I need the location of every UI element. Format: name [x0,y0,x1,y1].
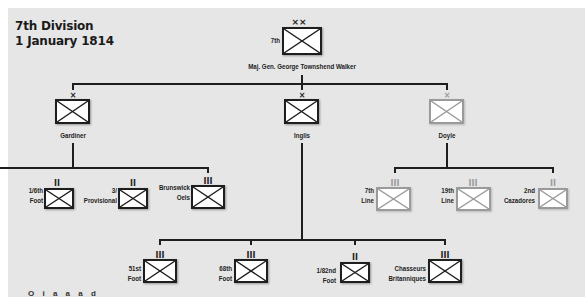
unit-label-line1: 1/6th [8,186,43,196]
infantry-cross-icon [145,261,175,281]
division-commander: Maj. Gen. George Townshend Walker [218,62,385,72]
infantry-cross-icon [284,29,320,53]
connector-line [446,83,448,90]
unit-label-line2: Foot [298,276,336,286]
connector-line [0,167,208,169]
connector-line [72,83,74,90]
connector-line [444,239,446,245]
brigade-doyle-symbol[interactable] [429,99,464,124]
unit-label-line2: Line [346,196,374,206]
infantry-cross-icon [120,190,146,207]
unit-label-line1: Brunswick [149,183,190,193]
connector-line [72,143,74,168]
division-unit-symbol[interactable] [282,27,322,55]
unit-label-line2: Provisional [70,196,117,206]
unit-19th-line-symbol[interactable] [456,187,491,211]
unit-chasseurs-britanniques-symbol[interactable] [428,259,462,283]
diagram-title-line1: 7th Division [15,19,93,33]
unit-label-line2: Oels [149,193,190,203]
unit-label-line1: Chasseurs [372,264,426,274]
division-name: 7th [255,36,280,46]
unit-label-line2: Foot [8,196,43,206]
connector-line [159,239,445,241]
infantry-cross-icon [540,190,566,207]
connector-line [250,239,252,245]
unit-label-line1: 19th [426,186,454,196]
unit-68th-foot-symbol[interactable] [234,259,268,283]
connector-line [354,239,356,245]
unit-size-symbol: II [543,180,563,188]
unit-label-line1: 1/82nd [298,266,336,276]
unit-1-82nd-foot-symbol[interactable] [340,262,370,283]
connector-line [301,143,303,240]
unit-label-line1: 7th [346,186,374,196]
infantry-cross-icon [57,101,88,122]
footer-partial-text: O i a a a d [28,289,99,297]
unit-label-line2: Line [426,196,454,206]
connector-line [446,143,448,168]
brigade-inglis-symbol[interactable] [284,99,319,124]
division-size-symbol: ×× [279,18,319,26]
unit-label-line1: 2nd [490,186,535,196]
unit-51st-foot-symbol[interactable] [143,259,177,283]
connector-line [394,167,396,173]
connector-line [72,83,447,85]
unit-label-line2: Foot [107,274,141,284]
unit-label-line1: 3/ [70,186,117,196]
unit-2nd-cazadores-symbol[interactable] [538,188,568,209]
unit-size-symbol: II [122,180,144,188]
connector-line [159,239,161,245]
unit-label-line1: 68th [198,264,232,274]
connector-line [552,167,554,173]
unit-7th-line-symbol[interactable] [376,187,411,211]
infantry-cross-icon [431,101,462,122]
infantry-cross-icon [378,189,409,209]
unit-size-symbol: II [46,180,68,188]
infantry-cross-icon [430,261,460,281]
unit-brunswick-oels-symbol[interactable] [191,185,225,209]
infantry-cross-icon [236,261,266,281]
unit-label-line2: Cazadores [490,196,535,206]
unit-3-provisional-symbol[interactable] [118,188,148,209]
infantry-cross-icon [286,101,317,122]
infantry-cross-icon [342,264,368,281]
unit-label-line1: 51st [107,264,141,274]
brigade-commander-doyle: Doyle [420,131,474,141]
infantry-cross-icon [458,189,489,209]
infantry-cross-icon [193,187,223,207]
unit-label-line2: Britanniques [372,274,426,284]
infantry-cross-icon [46,190,72,207]
unit-size-symbol: II [345,254,365,262]
connector-line [301,83,303,90]
diagram-title-line2: 1 January 1814 [15,34,114,48]
brigade-commander-gardiner: Gardiner [46,131,100,141]
connector-line [394,167,553,169]
brigade-gardiner-symbol[interactable] [55,99,90,124]
brigade-commander-inglis: Inglis [275,131,329,141]
connector-line [207,167,209,173]
unit-label-line2: Foot [198,274,232,284]
